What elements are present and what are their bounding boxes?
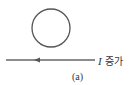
figure-caption: (a) — [72, 71, 83, 82]
figure — [0, 0, 135, 85]
conducting-loop — [32, 9, 70, 47]
current-increase-text: 증가 — [105, 56, 123, 67]
current-direction-arrow-icon — [34, 58, 40, 63]
current-label: I 증가 — [98, 53, 123, 68]
current-symbol: I — [98, 55, 102, 67]
